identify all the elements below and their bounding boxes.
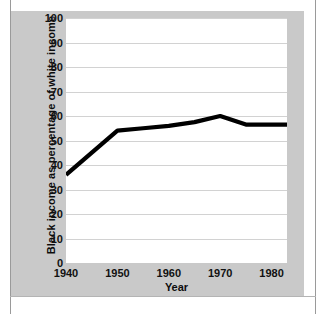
y-tick-label-100: 100: [33, 13, 63, 24]
x-axis-tick-labels: 19401950196019701980: [66, 267, 287, 281]
income-ratio-line: [66, 116, 287, 175]
y-tick-label-80: 80: [33, 62, 63, 73]
y-tick-label-40: 40: [33, 160, 63, 171]
y-tick-label-30: 30: [33, 185, 63, 196]
x-axis-title: Year: [66, 281, 287, 293]
x-tick-label-1960: 1960: [157, 267, 181, 279]
y-tick-label-50: 50: [33, 136, 63, 147]
plot-area: [66, 18, 287, 263]
figure-border-right: [315, 0, 316, 314]
y-tick-label-10: 10: [33, 234, 63, 245]
y-tick-label-90: 90: [33, 38, 63, 49]
x-tick-label-1950: 1950: [105, 267, 129, 279]
chart-figure: Black income as percentage of white inco…: [0, 0, 327, 314]
x-tick-label-1940: 1940: [54, 267, 78, 279]
x-tick-label-1980: 1980: [259, 267, 283, 279]
y-tick-label-20: 20: [33, 209, 63, 220]
x-tick-label-1970: 1970: [208, 267, 232, 279]
y-tick-label-60: 60: [33, 111, 63, 122]
y-axis-tick-labels: 1009080706050403020100: [29, 18, 63, 263]
figure-border-bottom: [10, 296, 316, 297]
y-tick-label-70: 70: [33, 87, 63, 98]
chart-panel: Black income as percentage of white inco…: [11, 11, 304, 296]
data-line-series: [66, 18, 287, 263]
